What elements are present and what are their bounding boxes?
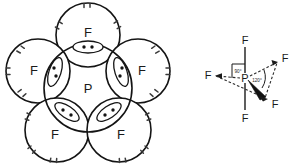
lewis-dot-structure: P F F F F F [6, 3, 170, 162]
lewis-central-atom-label: P [84, 81, 93, 96]
geometry-central-atom-label: P [241, 72, 248, 84]
geometry-atom-label-equatorial-upper-right: F [282, 52, 289, 64]
angle-marker-120-arc [262, 70, 265, 88]
geometry-atom-label-axial-bottom: F [242, 112, 249, 124]
bond-equatorial-lower-right-wedge [248, 80, 266, 100]
lewis-ligand-label-left: F [30, 63, 38, 78]
lewis-ligand-label-right: F [138, 63, 146, 78]
angle-label-120: 120° [252, 78, 262, 83]
bonding-pair-top [73, 41, 103, 53]
geometry-atom-label-equatorial-lower-right: F [272, 98, 279, 110]
geometry-atom-label-axial-top: F [242, 34, 249, 46]
chemistry-figure: P F F F F F 90° [0, 0, 299, 167]
bond-equatorial-upper-right [250, 63, 276, 76]
trigonal-bipyramidal-geometry: 90° 120° P F F F F F [205, 34, 289, 124]
lewis-ligand-label-bottom-right: F [117, 127, 125, 142]
geometry-atom-label-equatorial-left: F [205, 69, 212, 81]
figure-root: P F F F F F 90° [0, 0, 299, 167]
lewis-ligand-label-top: F [84, 25, 92, 40]
lewis-ligand-label-bottom-left: F [51, 127, 59, 142]
